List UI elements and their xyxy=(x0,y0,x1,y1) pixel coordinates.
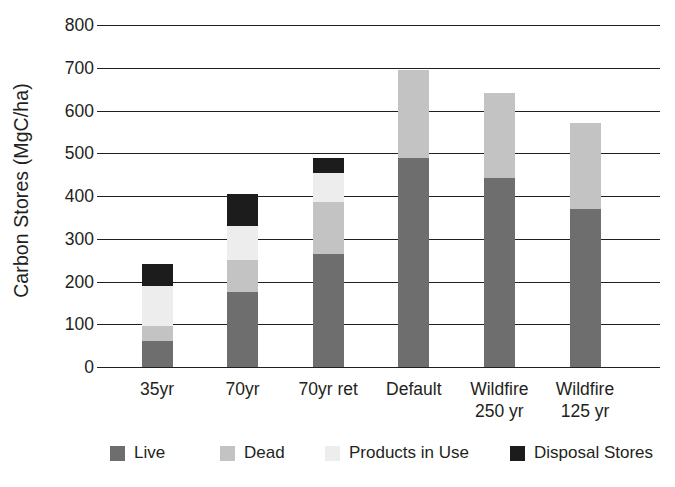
bar-segment-dead[interactable] xyxy=(398,70,429,158)
y-axis-tick-mark xyxy=(97,239,111,240)
legend-swatch-icon xyxy=(220,446,235,461)
bar-segment-dead[interactable] xyxy=(142,326,173,341)
legend-item-live[interactable]: Live xyxy=(110,443,165,463)
legend-item-products-in-use[interactable]: Products in Use xyxy=(325,443,469,463)
stacked-bar-chart: Carbon Stores (MgC/ha) 80070060050040030… xyxy=(0,0,675,487)
bar-segment-live[interactable] xyxy=(142,341,173,367)
bar-segment-dead[interactable] xyxy=(227,260,258,292)
y-axis-tick-label: 300 xyxy=(36,228,94,249)
bar-segment-dead[interactable] xyxy=(484,93,515,177)
legend: LiveDeadProducts in UseDisposal Stores xyxy=(110,443,655,467)
bar-segment-live[interactable] xyxy=(570,209,601,367)
y-axis-tick-label: 0 xyxy=(36,357,94,378)
bar-segment-dead[interactable] xyxy=(313,202,344,253)
bar-stack[interactable] xyxy=(398,70,429,367)
bar-segment-live[interactable] xyxy=(313,254,344,367)
legend-label: Disposal Stores xyxy=(534,443,653,463)
legend-label: Dead xyxy=(244,443,285,463)
y-axis-tick-label: 500 xyxy=(36,143,94,164)
bar-segment-disposal-stores[interactable] xyxy=(227,194,258,226)
bar-segment-products-in-use[interactable] xyxy=(313,173,344,203)
y-axis-tick-mark xyxy=(97,111,111,112)
legend-item-disposal-stores[interactable]: Disposal Stores xyxy=(510,443,653,463)
y-axis-tick-mark xyxy=(97,153,111,154)
legend-swatch-icon xyxy=(325,446,340,461)
gridline xyxy=(110,367,660,368)
y-axis-tick-label: 100 xyxy=(36,314,94,335)
bar-segment-dead[interactable] xyxy=(570,123,601,209)
y-axis-tick-label: 800 xyxy=(36,15,94,36)
plot-area xyxy=(110,25,660,367)
legend-item-dead[interactable]: Dead xyxy=(220,443,285,463)
gridline xyxy=(110,111,660,112)
bar-segment-disposal-stores[interactable] xyxy=(313,158,344,173)
y-axis-tick-mark xyxy=(97,68,111,69)
bar-stack[interactable] xyxy=(227,194,258,367)
legend-swatch-icon xyxy=(510,446,525,461)
bar-segment-disposal-stores[interactable] xyxy=(142,264,173,285)
bar-stack[interactable] xyxy=(570,123,601,367)
gridline xyxy=(110,68,660,69)
bar-stack[interactable] xyxy=(313,158,344,367)
gridline xyxy=(110,25,660,26)
y-axis-tick-mark xyxy=(97,367,111,368)
y-axis-title-label: Carbon Stores (MgC/ha) xyxy=(10,83,33,298)
bar-stack[interactable] xyxy=(142,264,173,367)
bar-segment-live[interactable] xyxy=(227,292,258,367)
y-axis-tick-label: 400 xyxy=(36,186,94,207)
y-axis-tick-mark xyxy=(97,282,111,283)
bar-stack[interactable] xyxy=(484,93,515,367)
y-axis-tick-mark xyxy=(97,196,111,197)
legend-label: Live xyxy=(134,443,165,463)
bar-segment-products-in-use[interactable] xyxy=(142,286,173,327)
legend-label: Products in Use xyxy=(349,443,469,463)
y-axis-tick-mark xyxy=(97,25,111,26)
bar-segment-live[interactable] xyxy=(398,158,429,367)
bar-segment-products-in-use[interactable] xyxy=(227,226,258,260)
bar-segment-live[interactable] xyxy=(484,178,515,367)
y-axis-tick-mark xyxy=(97,324,111,325)
y-axis-tick-label: 200 xyxy=(36,271,94,292)
x-axis-tick-label: Wildfire125 yr xyxy=(530,378,640,422)
y-axis-tick-label: 700 xyxy=(36,57,94,78)
y-axis-tick-label: 600 xyxy=(36,100,94,121)
legend-swatch-icon xyxy=(110,446,125,461)
